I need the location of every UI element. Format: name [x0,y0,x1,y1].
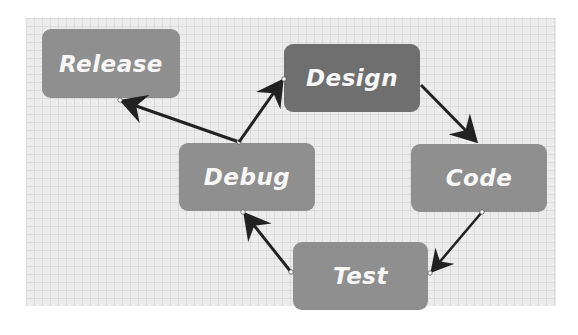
node-test-label: Test [333,263,388,289]
node-release-label: Release [59,51,163,77]
node-debug[interactable]: Debug [179,143,315,211]
node-code-label: Code [446,165,513,191]
node-debug-label: Debug [204,164,291,190]
node-design[interactable]: Design [284,44,420,112]
node-release[interactable]: Release [42,29,180,98]
node-code[interactable]: Code [411,144,547,212]
node-test[interactable]: Test [293,242,428,310]
node-design-label: Design [306,65,398,91]
